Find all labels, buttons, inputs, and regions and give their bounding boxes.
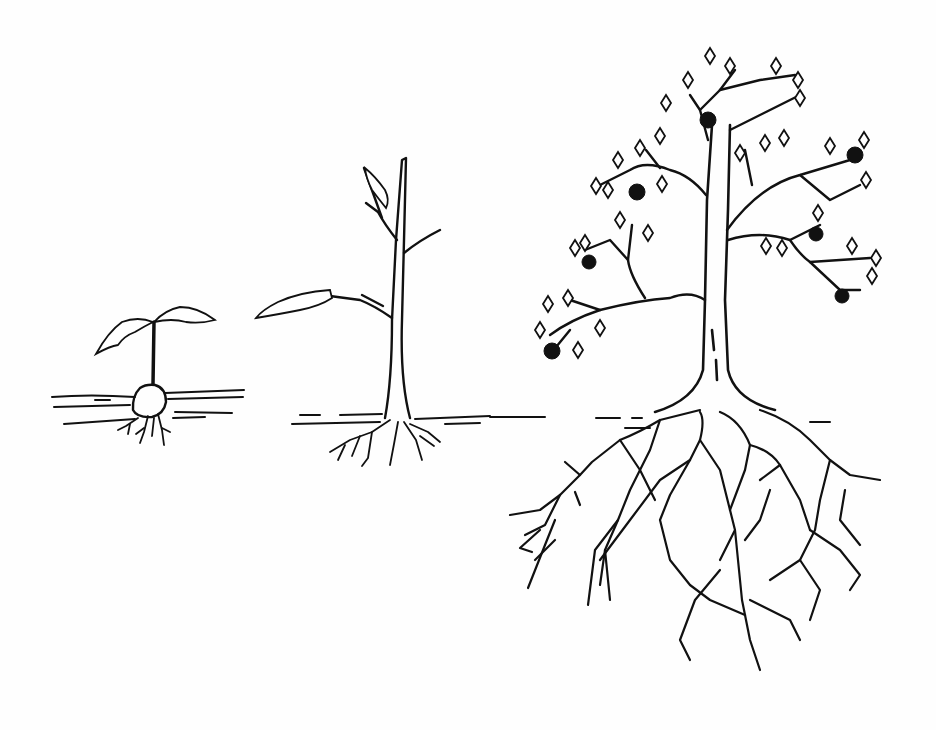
mature-tree [510,48,881,670]
fruit [809,227,823,241]
plant-growth-illustration [0,0,936,730]
seed [133,385,166,417]
fruit [582,255,596,269]
tree-trunk [655,125,775,412]
fruit [700,112,716,128]
fruit [629,184,645,200]
tree-roots [510,410,880,670]
seedling [52,307,244,445]
seedling-leaf-right [154,307,215,323]
sapling-trunk [385,158,410,418]
sapling-roots [330,420,440,466]
fruit [544,343,560,359]
fruit [835,289,849,303]
seedling-leaf-left [96,319,153,354]
illustration-svg [0,0,936,730]
sapling-leaf-left [256,290,332,318]
sapling [256,158,545,466]
sapling-ground-lines [292,414,545,424]
seedling-stem [153,322,154,384]
fruit [847,147,863,163]
